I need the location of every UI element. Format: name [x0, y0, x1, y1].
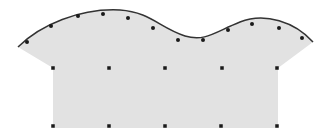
curve-point	[226, 28, 230, 32]
grid-point	[107, 124, 111, 128]
curve-point	[49, 24, 53, 28]
grid-point	[219, 124, 223, 128]
curve-point	[250, 22, 254, 26]
curve-point	[300, 36, 304, 40]
curve-point	[151, 26, 155, 30]
grid-point	[51, 66, 55, 70]
mesh-diagram	[0, 0, 335, 135]
grid-point	[220, 66, 224, 70]
grid-point	[163, 124, 167, 128]
curve-point	[277, 26, 281, 30]
grid-point	[51, 124, 55, 128]
grid-point	[107, 66, 111, 70]
curve-point	[25, 40, 29, 44]
curve-point	[76, 14, 80, 18]
grid-point	[275, 124, 279, 128]
grid-point	[163, 66, 167, 70]
curve-point	[101, 12, 105, 16]
curve-point	[201, 38, 205, 42]
curve-point	[176, 38, 180, 42]
grid-point	[275, 66, 279, 70]
curve-point	[126, 16, 130, 20]
